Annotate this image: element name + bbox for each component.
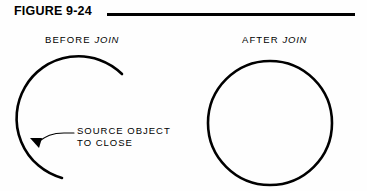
figure-illustration: FIGURE 9-24 BEFORE JOIN AFTER JOIN SOURC… — [0, 0, 367, 191]
closed-circle-shape — [208, 61, 332, 185]
source-object-annotation: SOURCE OBJECT TO CLOSE — [77, 125, 171, 149]
open-arc-shape — [17, 56, 122, 178]
annotation-line-2: TO CLOSE — [77, 137, 171, 149]
figure-drawing-canvas — [0, 0, 367, 191]
annotation-arrowhead-icon — [30, 138, 42, 148]
annotation-line-1: SOURCE OBJECT — [77, 125, 171, 137]
annotation-leader-line — [38, 133, 74, 142]
